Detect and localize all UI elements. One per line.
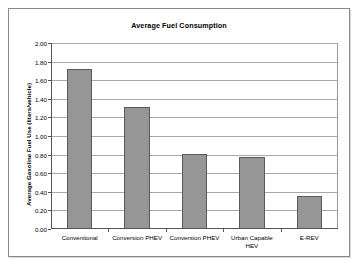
y-axis-title-label: Average Gasoline Fuel Use (liters/vehicl… xyxy=(25,83,32,206)
bar xyxy=(239,157,264,229)
plot-area: 0.000.200.400.600.801.001.201.401.601.80… xyxy=(51,43,338,229)
chart-frame: Average Fuel Consumption Average Gasolin… xyxy=(8,8,350,257)
y-tick-mark xyxy=(48,229,51,230)
y-axis-title: Average Gasoline Fuel Use (liters/vehicl… xyxy=(22,51,34,237)
y-tick-label: 1.80 xyxy=(35,58,47,65)
gridline xyxy=(51,62,338,63)
y-axis-line xyxy=(51,43,52,229)
y-tick-label: 0.60 xyxy=(35,170,47,177)
x-tick-mark xyxy=(108,229,109,232)
y-tick-label: 1.20 xyxy=(35,114,47,121)
chart-title: Average Fuel Consumption xyxy=(9,21,349,30)
y-tick-label: 0.00 xyxy=(35,226,47,233)
bar xyxy=(182,154,207,229)
gridline xyxy=(51,99,338,100)
y-tick-label: 1.00 xyxy=(35,133,47,140)
x-tick-mark xyxy=(223,229,224,232)
y-tick-label: 1.40 xyxy=(35,95,47,102)
y-tick-label: 0.40 xyxy=(35,188,47,195)
x-tick-mark xyxy=(281,229,282,232)
y-tick-label: 2.00 xyxy=(35,40,47,47)
gridline xyxy=(51,117,338,118)
x-tick-mark xyxy=(166,229,167,232)
gridline xyxy=(51,136,338,137)
y-tick-label: 0.80 xyxy=(35,151,47,158)
bar xyxy=(124,107,149,229)
y-tick-label: 1.60 xyxy=(35,77,47,84)
x-tick-label: E-REV xyxy=(275,234,343,242)
bar xyxy=(297,196,322,229)
gridline xyxy=(51,80,338,81)
gridline xyxy=(51,43,338,44)
bar xyxy=(67,69,92,229)
x-axis-line xyxy=(51,228,338,229)
y-tick-label: 0.20 xyxy=(35,207,47,214)
